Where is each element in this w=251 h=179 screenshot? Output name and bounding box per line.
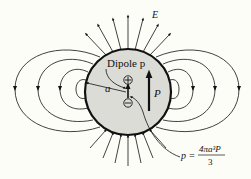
field-arrows-left <box>13 86 62 91</box>
polarization-label: P <box>153 87 161 99</box>
svg-text:p =: p = <box>180 150 195 161</box>
field-label: E <box>151 9 158 20</box>
svg-text:4πa³P: 4πa³P <box>199 144 221 154</box>
svg-text:3: 3 <box>208 157 213 167</box>
dipole-label: Dipole p <box>107 57 146 69</box>
polarized-sphere-diagram: a Dipole p P E p = 4πa³P 3 <box>0 0 251 179</box>
dipole-moment-equation: p = 4πa³P 3 <box>180 144 225 167</box>
radius-label: a <box>105 82 111 94</box>
field-arrows-right <box>191 86 241 91</box>
